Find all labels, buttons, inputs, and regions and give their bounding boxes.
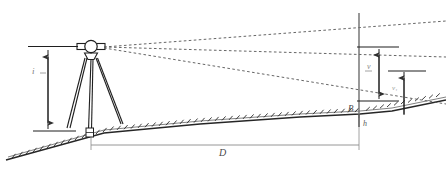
label-v: v — [367, 63, 371, 71]
dimension-v — [357, 47, 399, 101]
sight-line-upper — [104, 21, 446, 47]
sight-line-middle — [104, 47, 446, 57]
sight-line-lower — [104, 48, 446, 104]
label-horizontal-distance-D: D — [219, 148, 226, 158]
instrument-alidade — [85, 40, 97, 52]
dimension-instrument-height — [28, 47, 78, 132]
label-target-height-h: h — [363, 120, 367, 128]
label-v1: v₁ — [392, 85, 398, 92]
label-instrument-height: i — [32, 67, 35, 76]
ground-line-inner — [8, 97, 446, 157]
survey-diagram-figure: i v v₁ B h D — [0, 0, 446, 178]
label-station-B: B — [348, 104, 354, 113]
total-station-instrument — [67, 40, 123, 137]
tripod-legs — [67, 58, 123, 130]
